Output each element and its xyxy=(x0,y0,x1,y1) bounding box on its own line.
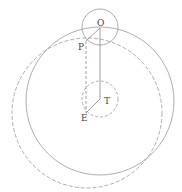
label-P: P xyxy=(78,42,84,52)
line-T-E xyxy=(86,99,100,113)
label-O: O xyxy=(97,18,104,28)
label-E: E xyxy=(81,113,88,123)
label-T: T xyxy=(104,96,110,106)
geometry-diagram: O P T E xyxy=(0,0,182,192)
